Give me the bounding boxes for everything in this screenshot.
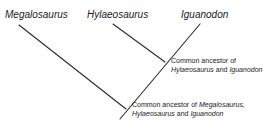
cladogram: Megalosaurus Hylaeosaurus Iguanodon Comm… bbox=[0, 0, 271, 128]
label-hylaeosaurus: Hylaeosaurus bbox=[132, 110, 175, 117]
taxon-megalosaurus: Megalosaurus bbox=[5, 9, 68, 21]
node-label-upper: Common ancestor of Hylaeosaurus and Igua… bbox=[171, 56, 262, 74]
label-megalosaurus: Megalosaurus, bbox=[199, 101, 245, 108]
label-common-ancestor: Common ancestor of bbox=[132, 101, 199, 108]
taxon-iguanodon: Iguanodon bbox=[181, 9, 228, 21]
label-hylaeosaurus: Hylaeosaurus bbox=[171, 66, 214, 73]
label-and: and bbox=[214, 66, 230, 73]
branch-megalosaurus bbox=[19, 25, 126, 109]
node-label-lower-line1: Common ancestor of Megalosaurus, bbox=[132, 100, 245, 109]
node-label-lower-line2: Hylaeosaurus and Iguanodon bbox=[132, 109, 245, 118]
node-label-lower: Common ancestor of Megalosaurus, Hylaeos… bbox=[132, 100, 245, 118]
label-iguanodon: Iguanodon bbox=[190, 110, 223, 117]
label-and: and bbox=[175, 110, 191, 117]
branch-hylaeosaurus bbox=[113, 24, 165, 62]
taxon-hylaeosaurus: Hylaeosaurus bbox=[87, 9, 148, 21]
node-label-upper-line1: Common ancestor of bbox=[171, 56, 262, 65]
node-label-upper-line2: Hylaeosaurus and Iguanodon bbox=[171, 65, 262, 74]
label-iguanodon: Iguanodon bbox=[229, 66, 262, 73]
